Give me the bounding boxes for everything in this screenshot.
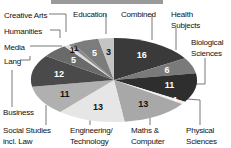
slice-value-label: 13 — [93, 102, 103, 112]
label-education: Education — [73, 11, 107, 19]
label-creative-arts: Creative Arts — [4, 12, 47, 20]
label-social-2: incl. Law — [3, 138, 32, 146]
label-social-1: Social Studies — [3, 127, 51, 135]
label-bio-1: Biological — [191, 39, 223, 47]
label-health-2: Subjects — [171, 22, 200, 30]
slice-value-label: 12 — [54, 69, 64, 79]
label-eng-1: Engineering/ — [70, 127, 113, 135]
label-eng-2: Technology — [70, 138, 108, 146]
label-bio-2: Sciences — [191, 50, 222, 58]
label-health-1: Health — [171, 11, 193, 19]
label-lang: Lang — [4, 58, 21, 66]
label-combined: Combined — [121, 11, 156, 19]
slice-value-label: 5 — [92, 48, 97, 58]
slice-value-label: 13 — [138, 99, 148, 109]
slice-value-label: 11 — [60, 89, 70, 99]
label-maths-2: Computer — [131, 138, 165, 146]
slice-value-label: 3 — [106, 47, 111, 57]
label-humanities: Humanities — [4, 28, 42, 36]
slice-value-label: 6 — [164, 65, 169, 75]
slice-value-label: 5 — [71, 55, 76, 65]
label-phys-1: Physical — [186, 127, 214, 135]
label-business: Business — [3, 109, 34, 117]
label-media: Media — [4, 44, 25, 52]
label-phys-2: Sciences — [186, 138, 217, 146]
label-maths-1: Maths & — [131, 127, 159, 135]
slice-value-label: 11 — [165, 80, 175, 90]
slice-value-label: 16 — [137, 50, 147, 60]
